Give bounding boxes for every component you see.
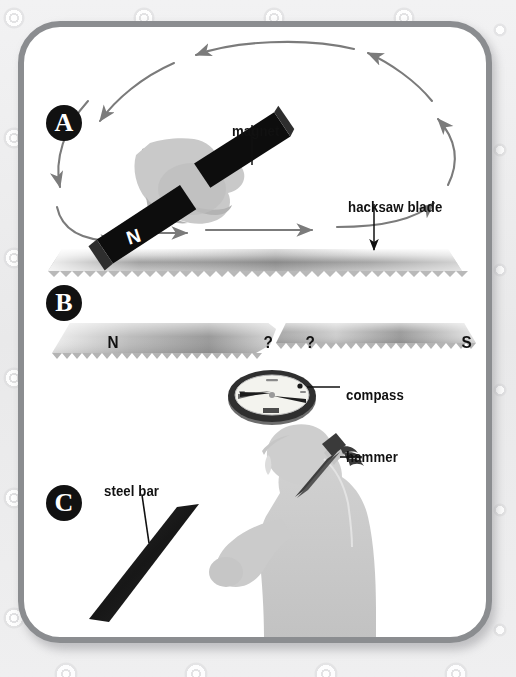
- arrow-right-ascending-upper: [368, 53, 432, 101]
- label-magnet: magnet: [232, 122, 279, 139]
- label-hammer: hammer: [346, 448, 398, 465]
- artwork-svg: S N: [24, 27, 486, 637]
- arrow-right-ascending-lower: [438, 119, 455, 185]
- arrow-upper-left-segment: [100, 63, 174, 121]
- panel-badge-c: C: [46, 485, 82, 521]
- saw-teeth-b-left: [52, 353, 262, 359]
- arrow-top-right-segment: [196, 42, 354, 55]
- panel-badge-a: A: [46, 105, 82, 141]
- saw-teeth-a: [48, 271, 468, 277]
- label-hacksaw-blade: hacksaw blade: [348, 198, 442, 215]
- label-compass: compass: [346, 386, 404, 403]
- blade-b-pole-north: N: [108, 333, 119, 353]
- hand-holding-magnet: S N: [65, 103, 317, 273]
- panel-badge-b: B: [46, 285, 82, 321]
- compass: [228, 370, 316, 425]
- magnet-pole-s: S: [265, 153, 284, 177]
- illustration-card: S N: [18, 21, 492, 643]
- blade-b-question-right: ?: [306, 333, 315, 353]
- blade-b-pole-south: S: [462, 333, 472, 353]
- label-steel-bar: steel bar: [104, 482, 159, 499]
- blade-b-question-left: ?: [264, 333, 273, 353]
- figure-root: S N: [0, 0, 516, 677]
- steel-bar: [89, 504, 199, 622]
- leader-steel-bar: [142, 495, 149, 543]
- card-inner: S N: [24, 27, 486, 637]
